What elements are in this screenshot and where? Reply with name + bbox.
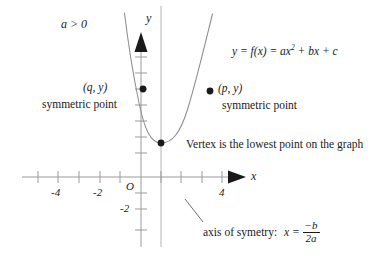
symmetric-point-left-coord: (q, y) — [83, 82, 107, 94]
x-tick-label-neg2: -2 — [93, 187, 102, 198]
y-axis-arrowhead — [135, 32, 148, 52]
axis-of-symmetry-equals: x = — [284, 226, 300, 238]
function-equation-label: y = f(x) = ax2 + bx + c — [232, 44, 338, 57]
fraction-numerator: −b — [303, 220, 320, 232]
y-axis-label: y — [146, 12, 151, 24]
vertex-marker — [158, 140, 165, 147]
vertex-note-label: Vertex is the lowest point on the graph — [186, 139, 363, 151]
axis-of-symmetry-caption: axis of symetry: x = −b 2a — [203, 221, 320, 245]
symmetric-point-right-marker — [207, 88, 214, 95]
x-tick-label-neg4: -4 — [51, 187, 60, 198]
axis-of-symmetry-text: axis of symetry: — [203, 226, 277, 238]
figure-canvas: a > 0 y x O -4 -2 4 -2 y = f(x) = ax2 + … — [0, 0, 392, 264]
parabola-curve — [125, 13, 213, 143]
equation-lhs: y = f(x) = — [232, 45, 280, 57]
symmetric-point-left-marker — [140, 86, 147, 93]
symmetric-point-right-coord: (p, y) — [218, 83, 242, 95]
x-tick-label-4: 4 — [219, 187, 225, 198]
x-axis-label: x — [251, 170, 256, 182]
fraction-denominator: 2a — [303, 232, 320, 245]
condition-label: a > 0 — [61, 18, 87, 30]
x-axis-arrowhead — [228, 171, 246, 184]
y-tick-label-neg2: -2 — [120, 203, 129, 214]
axis-of-symmetry-leader-line — [185, 199, 203, 222]
symmetric-point-left-caption: symmetric point — [42, 99, 117, 111]
axis-of-symmetry-fraction: −b 2a — [303, 220, 320, 244]
equation-term-a: ax — [280, 45, 291, 57]
equation-rest: + bx + c — [295, 45, 338, 57]
symmetric-point-right-caption: symmetric point — [222, 100, 297, 112]
diagram-svg — [0, 0, 392, 264]
origin-label: O — [126, 181, 134, 192]
